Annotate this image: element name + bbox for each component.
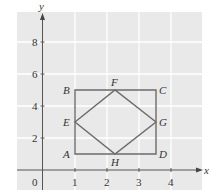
x-axis-label: x [203,164,209,176]
origin-label: 0 [32,176,38,188]
y-axis-label: y [38,0,44,12]
y-tick-label: 8 [32,36,38,48]
coordinate-plane-figure: x y 0 1 2 3 4 2 4 6 8 A B C D E F G H [0,0,210,190]
point-label-b: B [63,84,70,96]
point-label-f: F [110,76,118,88]
x-tick-label: 1 [72,176,78,188]
y-tick-label: 2 [32,132,38,144]
x-tick-label: 2 [104,176,110,188]
point-label-g: G [159,116,167,128]
y-tick-label: 4 [32,100,38,112]
point-label-d: D [158,148,167,160]
point-label-e: E [62,116,70,128]
x-tick-label: 3 [136,176,142,188]
point-label-h: H [110,156,120,168]
point-label-a: A [62,148,70,160]
point-label-c: C [159,84,167,96]
y-tick-label: 6 [32,68,38,80]
x-tick-label: 4 [168,176,174,188]
plot-background [17,12,202,190]
